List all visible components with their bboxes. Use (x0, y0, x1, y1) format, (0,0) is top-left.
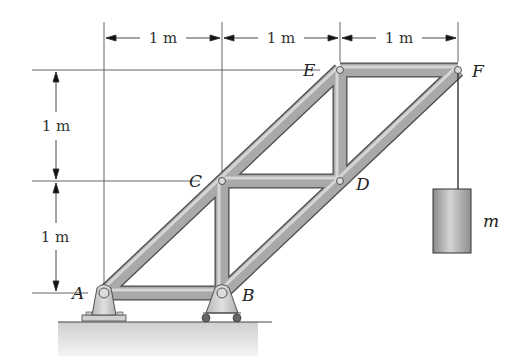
pin-C (219, 178, 226, 185)
truss-diagram: 1 m 1 m 1 m 1 m 1 m (0, 0, 520, 356)
vertical-dimensions (53, 72, 59, 291)
pin-E (337, 67, 344, 74)
pin-A (99, 288, 109, 298)
truss-members (102, 67, 458, 293)
dim-label-h1: 1 m (149, 29, 178, 47)
joint-label-D: D (355, 174, 370, 194)
joint-label-A: A (70, 283, 84, 303)
dim-label-v2: 1 m (41, 228, 70, 246)
mass-label: m (483, 211, 499, 231)
dim-label-h3: 1 m (385, 29, 414, 47)
ground (58, 322, 272, 356)
joint-label-B: B (241, 285, 255, 305)
pin-F (455, 67, 462, 74)
dim-label-v1: 1 m (42, 117, 71, 135)
joint-label-C: C (189, 171, 202, 191)
mass-block (433, 189, 471, 253)
joint-label-E: E (302, 60, 316, 80)
pin-D (337, 178, 344, 185)
pin-B (217, 288, 227, 298)
joint-label-F: F (471, 61, 485, 81)
dim-label-h2: 1 m (267, 29, 296, 47)
